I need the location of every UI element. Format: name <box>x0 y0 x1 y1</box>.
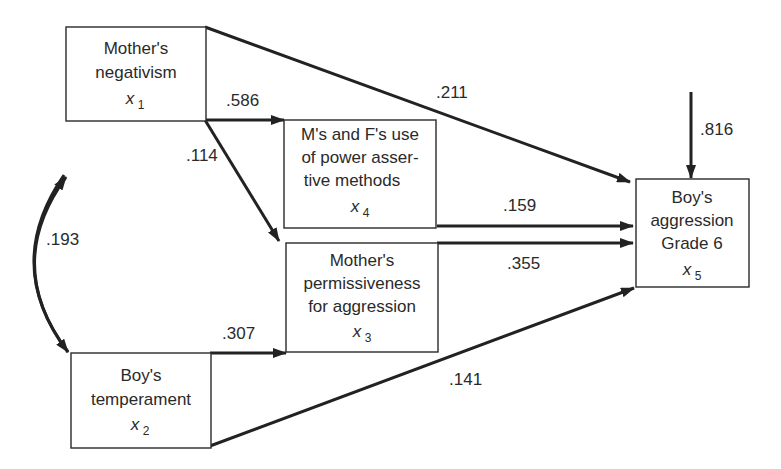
coef-residual-x5: .816 <box>700 120 733 139</box>
svg-text:x: x <box>682 260 692 279</box>
svg-text:2: 2 <box>143 424 150 438</box>
svg-text:Mother's: Mother's <box>330 251 395 270</box>
path-diagram: Mother's negativism x 1 M's and F's use … <box>0 0 781 469</box>
svg-text:1: 1 <box>138 98 145 112</box>
svg-text:temperament: temperament <box>91 390 191 409</box>
svg-text:aggression: aggression <box>650 211 733 230</box>
edge-x1-x3 <box>205 120 279 241</box>
node-mothers-permissiveness: Mother's permissiveness for aggression x… <box>286 243 438 352</box>
svg-text:of power asser-: of power asser- <box>301 148 418 167</box>
coef-correlation-x1-x2: .193 <box>46 230 79 249</box>
coef-x1-x3: .114 <box>186 146 218 165</box>
correlation-x1-x2 <box>34 175 68 352</box>
svg-text:5: 5 <box>695 269 702 283</box>
svg-text:Boy's: Boy's <box>120 366 161 385</box>
svg-text:Mother's: Mother's <box>104 39 169 58</box>
coef-x1-x5: .211 <box>436 83 468 102</box>
svg-text:x: x <box>130 415 140 434</box>
svg-text:3: 3 <box>365 331 372 345</box>
node-boys-temperament: Boy's temperament x 2 <box>71 353 211 448</box>
svg-text:4: 4 <box>363 206 370 220</box>
coef-x1-x4: .586 <box>226 91 259 110</box>
svg-text:x: x <box>352 322 362 341</box>
node-boys-aggression: Boy's aggression Grade 6 x 5 <box>636 179 749 287</box>
node-mothers-negativism: Mother's negativism x 1 <box>66 27 206 121</box>
coef-x3-x5: .355 <box>507 254 540 273</box>
svg-text:tive methods: tive methods <box>304 171 400 190</box>
svg-text:for aggression: for aggression <box>308 297 416 316</box>
node-power-assertive-methods: M's and F's use of power asser- tive met… <box>284 120 436 228</box>
svg-text:x: x <box>125 89 135 108</box>
svg-text:negativism: negativism <box>95 63 176 82</box>
svg-text:M's and F's use: M's and F's use <box>301 125 419 144</box>
coef-x4-x5: .159 <box>503 196 536 215</box>
svg-text:Grade 6: Grade 6 <box>661 234 722 253</box>
svg-text:Boy's: Boy's <box>671 188 712 207</box>
coef-x2-x3: .307 <box>222 324 255 343</box>
coef-x2-x5: .141 <box>449 370 482 389</box>
svg-text:x: x <box>350 197 360 216</box>
svg-text:permissiveness: permissiveness <box>303 274 420 293</box>
